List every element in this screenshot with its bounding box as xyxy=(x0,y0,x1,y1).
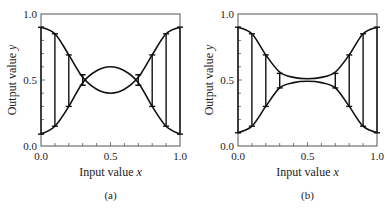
y-axis-label: Output value y xyxy=(5,44,19,115)
series-curve xyxy=(41,67,180,134)
panel-caption-a: (a) xyxy=(104,189,117,202)
series-curve xyxy=(238,27,377,78)
x-tick-label-0.5: 0.5 xyxy=(301,150,315,162)
series-curve xyxy=(41,27,180,93)
chart-panel-b: 1.0 0.5 0.0 0.0 0.5 1.0 Input value x Ou… xyxy=(202,8,384,202)
x-tick-label-1.0: 1.0 xyxy=(370,150,384,162)
x-tick-label-0.0: 0.0 xyxy=(231,150,245,162)
x-axis-label: Input value x xyxy=(276,165,339,179)
axis-ticks xyxy=(41,27,166,146)
x-tick-label-0.5: 0.5 xyxy=(104,150,118,162)
x-axis-label: Input value x xyxy=(79,165,142,179)
error-bars xyxy=(235,27,380,133)
x-tick-label-0.0: 0.0 xyxy=(34,150,48,162)
y-tick-label-1.0: 1.0 xyxy=(23,8,37,20)
figure: 1.0 0.5 0.0 0.0 0.5 1.0 Input value x Ou… xyxy=(0,0,387,211)
error-bars xyxy=(38,27,183,134)
x-tick-label-1.0: 1.0 xyxy=(173,150,187,162)
plot-area-frame xyxy=(238,14,377,146)
axis-ticks xyxy=(238,27,363,146)
y-axis-label: Output value y xyxy=(202,44,216,115)
data-curves xyxy=(238,27,377,133)
plot-area-frame xyxy=(41,14,180,146)
y-tick-label-0.5: 0.5 xyxy=(220,74,234,86)
series-curve xyxy=(238,81,377,132)
data-curves xyxy=(41,27,180,134)
y-tick-label-1.0: 1.0 xyxy=(220,8,234,20)
chart-panel-a: 1.0 0.5 0.0 0.0 0.5 1.0 Input value x Ou… xyxy=(5,8,187,202)
y-tick-label-0.5: 0.5 xyxy=(23,74,37,86)
panel-caption-b: (b) xyxy=(301,189,314,202)
